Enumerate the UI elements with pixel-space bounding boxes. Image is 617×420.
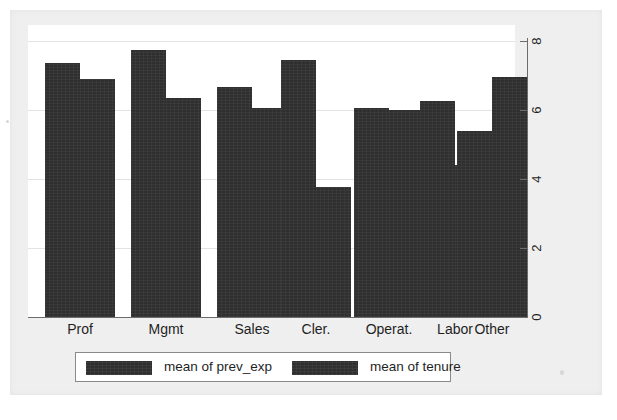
bar-mgmt-tenure — [166, 98, 201, 317]
bar-cler-prev-exp — [281, 60, 316, 317]
bar-operat-tenure — [389, 110, 424, 317]
bar-prof-tenure — [80, 79, 115, 317]
y-tick-label-4: 4 — [529, 164, 544, 194]
y-tick-mark-0 — [520, 317, 527, 318]
x-tick-label-cler: Cler. — [286, 321, 346, 337]
y-tick-label-0: 0 — [529, 302, 544, 332]
legend-label-tenure: mean of tenure — [370, 359, 461, 374]
gridline-8 — [28, 41, 515, 42]
x-tick-label-prof: Prof — [50, 321, 110, 337]
bar-other-prev-exp-2 — [457, 131, 492, 317]
legend-key-prev-exp — [86, 361, 152, 375]
y-tick-mark-2 — [520, 248, 527, 249]
x-axis-line — [28, 317, 528, 318]
bar-other-tenure — [492, 77, 527, 317]
bar-mgmt-prev-exp — [131, 50, 166, 317]
y-tick-label-6: 6 — [529, 95, 544, 125]
bar-sales-prev-exp — [217, 87, 252, 317]
bar-cler-tenure — [316, 187, 351, 317]
legend-label-prev-exp: mean of prev_exp — [164, 359, 272, 374]
y-tick-mark-8 — [520, 41, 527, 42]
x-tick-label-sales: Sales — [222, 321, 282, 337]
x-tick-label-other: Other — [462, 321, 522, 337]
bar-labor-prev-exp — [420, 101, 455, 317]
y-axis-line — [527, 38, 528, 318]
x-tick-label-operat: Operat. — [359, 321, 419, 337]
legend-key-tenure — [292, 361, 358, 375]
x-tick-label-mgmt: Mgmt — [136, 321, 196, 337]
y-tick-mark-4 — [520, 179, 527, 180]
scan-speck — [560, 370, 564, 375]
bar-operat-prev-exp — [354, 108, 389, 317]
chart-legend: mean of prev_exp mean of tenure — [75, 352, 451, 382]
bar-prof-prev-exp — [45, 63, 80, 317]
y-tick-label-8: 8 — [529, 26, 544, 56]
bar-chart-figure: 8 6 4 2 0 Prof Mgmt Sales Cler. Operat. … — [0, 0, 617, 420]
y-tick-mark-6 — [520, 110, 527, 111]
scan-speck-2 — [6, 120, 9, 123]
y-tick-label-2: 2 — [529, 233, 544, 263]
